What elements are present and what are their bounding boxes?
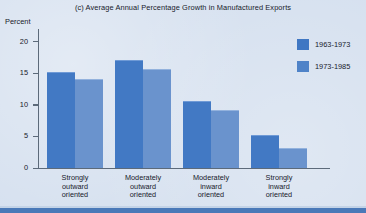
- bar: [211, 110, 239, 168]
- bar: [183, 101, 211, 168]
- legend-label: 1973-1985: [315, 62, 350, 71]
- category-label-line: oriented: [108, 191, 178, 200]
- x-axis-category-label: Stronglyoutwardoriented: [40, 174, 110, 200]
- chart-figure: (c) Average Annual Percentage Growth in …: [0, 0, 366, 213]
- x-axis-category-label: Stronglyinwardoriented: [244, 174, 314, 200]
- x-axis-category-label: Moderatelyinwardoriented: [176, 174, 246, 200]
- category-label-line: oriented: [244, 191, 314, 200]
- legend-item[interactable]: 1973-1985: [297, 55, 350, 77]
- x-axis-category-label: Moderatelyoutwardoriented: [108, 174, 178, 200]
- category-label-line: oriented: [176, 191, 246, 200]
- bar: [47, 72, 75, 168]
- page-edge-strip: [0, 208, 366, 213]
- bar: [115, 60, 143, 168]
- bar: [251, 135, 279, 168]
- legend-label: 1963-1973: [315, 40, 350, 49]
- legend-item[interactable]: 1963-1973: [297, 33, 350, 55]
- bar: [75, 79, 103, 168]
- bar: [143, 69, 171, 168]
- category-label-line: oriented: [40, 191, 110, 200]
- legend-swatch-icon: [297, 39, 309, 50]
- bar: [279, 148, 307, 168]
- legend-swatch-icon: [297, 61, 309, 72]
- chart-legend: 1963-1973 1973-1985: [297, 33, 350, 77]
